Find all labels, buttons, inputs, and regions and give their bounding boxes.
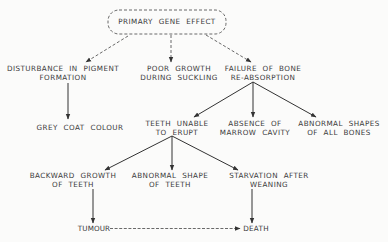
node-bone-shapes: ABNORMAL SHAPES OF ALL BONES — [298, 119, 379, 137]
node-line: BACKWARD GROWTH — [30, 171, 117, 180]
node-line: DISTURBANCE IN PIGMENT — [7, 64, 119, 73]
node-line: ABNORMAL SHAPES — [298, 119, 379, 128]
node-poor-growth: POOR GROWTH DURING SUCKLING — [140, 64, 218, 82]
edge-teeth-to-backward — [105, 136, 172, 170]
node-line: STARVATION AFTER — [229, 171, 309, 180]
edge-bone-to-teeth-unable — [194, 82, 253, 117]
edge-primary-to-pigment — [86, 36, 128, 62]
node-line: DEATH — [243, 224, 269, 233]
node-line: ABSENCE OF — [220, 119, 290, 128]
node-tumour: TUMOUR — [78, 224, 110, 233]
node-teeth-shape: ABNORMAL SHAPE OF TEETH — [132, 171, 208, 189]
node-line: GREY COAT COLOUR — [37, 123, 124, 132]
node-line: POOR GROWTH — [140, 64, 218, 73]
node-marrow: ABSENCE OF MARROW CAVITY — [220, 119, 290, 137]
node-death: DEATH — [243, 224, 269, 233]
node-line: TUMOUR — [78, 224, 110, 233]
node-line: OF TEETH — [30, 180, 117, 189]
node-starvation: STARVATION AFTER WEANING — [229, 171, 309, 189]
node-line: TO ERUPT — [146, 128, 209, 137]
node-bone-failure: FAILURE OF BONE RE-ABSORPTION — [225, 64, 301, 82]
node-line: MARROW CAVITY — [220, 128, 290, 137]
node-line: TEETH UNABLE — [146, 119, 209, 128]
node-line: OF ALL BONES — [298, 128, 379, 137]
node-pigment: DISTURBANCE IN PIGMENT FORMATION — [7, 64, 119, 82]
node-line: OF TEETH — [132, 180, 208, 189]
node-line: WEANING — [229, 180, 309, 189]
node-teeth-unable: TEETH UNABLE TO ERUPT — [146, 119, 209, 137]
edge-teeth-to-starvation — [172, 136, 238, 170]
edge-bone-to-bone-shapes — [253, 82, 316, 117]
node-backward-growth: BACKWARD GROWTH OF TEETH — [30, 171, 117, 189]
edge-primary-to-bone-failure — [206, 35, 251, 62]
node-line: PRIMARY GENE EFFECT — [118, 17, 215, 26]
node-line: FAILURE OF BONE — [225, 64, 301, 73]
node-line: DURING SUCKLING — [140, 73, 218, 82]
node-line: RE-ABSORPTION — [225, 73, 301, 82]
node-line: FORMATION — [7, 73, 119, 82]
node-grey-coat: GREY COAT COLOUR — [37, 123, 124, 132]
node-line: ABNORMAL SHAPE — [132, 171, 208, 180]
node-primary-gene-effect: PRIMARY GENE EFFECT — [118, 17, 215, 26]
